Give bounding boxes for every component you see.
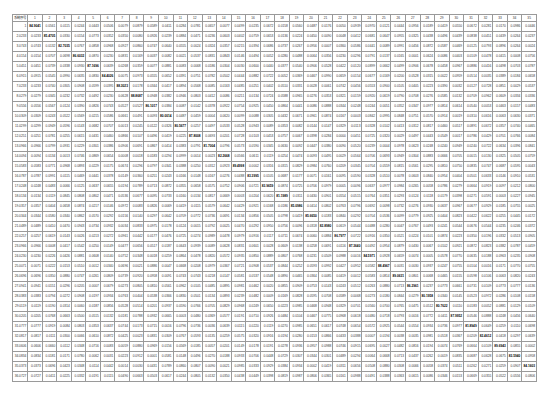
table-cell[interactable]: 0.0470 — [57, 222, 72, 232]
table-cell[interactable]: 0.0019 — [435, 352, 450, 362]
table-cell[interactable]: 0.0183 — [318, 212, 333, 222]
table-cell[interactable]: 0.0181 — [42, 352, 57, 362]
table-cell[interactable]: 0.0544 — [478, 222, 493, 232]
table-cell[interactable]: 0.0619 — [333, 222, 348, 232]
table-cell[interactable]: 0.0548 — [260, 272, 275, 282]
table-cell[interactable]: 0.0388 — [376, 372, 391, 382]
table-cell[interactable]: 0.0332 — [71, 372, 86, 382]
table-cell[interactable]: 0.0737 — [275, 42, 290, 52]
table-cell[interactable]: 0.0999 — [173, 152, 188, 162]
table-cell[interactable]: 0.0949 — [449, 142, 464, 152]
table-cell[interactable]: 0.0064 — [362, 352, 377, 362]
table-cell[interactable]: 0.0616 — [478, 112, 493, 122]
table-cell[interactable]: 0.0764 — [362, 192, 377, 202]
table-cell[interactable]: 0.0635 — [71, 72, 86, 82]
diagonal-cell[interactable]: 89.4998 — [231, 162, 246, 172]
table-cell[interactable]: 0.0119 — [260, 152, 275, 162]
table-cell[interactable]: 0.0398 — [260, 372, 275, 382]
table-cell[interactable]: 0.0077 — [217, 22, 232, 32]
table-cell[interactable]: 0.0305 — [57, 82, 72, 92]
table-cell[interactable]: 0.0446 — [522, 22, 537, 32]
table-cell[interactable]: 0.0377 — [275, 62, 290, 72]
table-cell[interactable]: 0.0555 — [144, 72, 159, 82]
table-cell[interactable]: 0.0305 — [260, 112, 275, 122]
table-cell[interactable]: 0.0630 — [507, 112, 522, 122]
table-cell[interactable]: 0.0346 — [435, 372, 450, 382]
table-cell[interactable]: 0.0345 — [42, 92, 57, 102]
table-cell[interactable]: 0.0183 — [464, 302, 479, 312]
table-cell[interactable]: 0.0382 — [493, 242, 508, 252]
table-cell[interactable]: 0.0870 — [86, 52, 101, 62]
table-cell[interactable]: 0.0920 — [129, 272, 144, 282]
table-cell[interactable]: 0.0662 — [376, 62, 391, 72]
table-cell[interactable]: 0.0257 — [188, 122, 203, 132]
table-cell[interactable]: 0.0561 — [406, 162, 421, 172]
table-cell[interactable]: 0.0071 — [28, 262, 43, 272]
table-cell[interactable]: 0.0237 — [522, 32, 537, 42]
table-cell[interactable]: 0.0482 — [391, 342, 406, 352]
table-cell[interactable]: 0.0212 — [507, 182, 522, 192]
table-cell[interactable]: 0.0090 — [333, 142, 348, 152]
table-cell[interactable]: 0.0954 — [376, 242, 391, 252]
table-cell[interactable]: 0.0682 — [86, 122, 101, 132]
table-cell[interactable]: 0.0262 — [464, 362, 479, 372]
table-cell[interactable]: 0.0419 — [333, 272, 348, 282]
table-cell[interactable]: 0.0978 — [391, 142, 406, 152]
table-cell[interactable]: 0.0816 — [406, 342, 421, 352]
table-cell[interactable]: 0.0915 — [347, 342, 362, 352]
table-cell[interactable]: 0.0000 — [333, 132, 348, 142]
table-cell[interactable]: 0.0727 — [28, 372, 43, 382]
table-cell[interactable]: 0.0154 — [71, 32, 86, 42]
table-cell[interactable]: 0.0194 — [420, 342, 435, 352]
table-cell[interactable]: 0.0573 — [231, 142, 246, 152]
table-cell[interactable]: 0.0135 — [202, 332, 217, 342]
table-cell[interactable]: 0.0114 — [86, 362, 101, 372]
table-cell[interactable]: 0.0493 — [420, 222, 435, 232]
table-cell[interactable]: 0.0820 — [507, 272, 522, 282]
table-cell[interactable]: 0.0977 — [376, 182, 391, 192]
table-cell[interactable]: 0.0888 — [318, 102, 333, 112]
table-cell[interactable]: 0.0835 — [464, 162, 479, 172]
table-cell[interactable]: 0.0386 — [100, 142, 115, 152]
table-cell[interactable]: 0.0237 — [420, 282, 435, 292]
table-cell[interactable]: 0.0082 — [158, 52, 173, 62]
table-cell[interactable]: 0.0030 — [406, 262, 421, 272]
table-cell[interactable]: 0.0080 — [129, 32, 144, 42]
table-cell[interactable]: 0.0725 — [362, 132, 377, 142]
table-cell[interactable]: 0.0930 — [71, 62, 86, 72]
table-cell[interactable]: 0.0801 — [406, 272, 421, 282]
diagonal-cell[interactable]: 87.3640 — [347, 242, 362, 252]
table-cell[interactable]: 0.0124 — [57, 102, 72, 112]
table-cell[interactable]: 0.0063 — [493, 112, 508, 122]
table-cell[interactable]: 0.0331 — [289, 82, 304, 92]
table-cell[interactable]: 0.0483 — [522, 102, 537, 112]
table-cell[interactable]: 0.0591 — [478, 192, 493, 202]
table-cell[interactable]: 0.0085 — [318, 272, 333, 282]
table-cell[interactable]: 0.0086 — [217, 92, 232, 102]
table-cell[interactable]: 0.0099 — [391, 212, 406, 222]
table-cell[interactable]: 0.0792 — [202, 222, 217, 232]
table-cell[interactable]: 0.0240 — [464, 142, 479, 152]
table-cell[interactable]: 0.0687 — [464, 352, 479, 362]
table-cell[interactable]: 0.0497 — [202, 122, 217, 132]
table-cell[interactable]: 0.0880 — [376, 362, 391, 372]
table-cell[interactable]: 0.0936 — [289, 342, 304, 352]
diagonal-cell[interactable]: 89.0631 — [391, 272, 406, 282]
table-cell[interactable]: 0.0810 — [144, 282, 159, 292]
table-cell[interactable]: 0.0907 — [507, 362, 522, 372]
table-cell[interactable]: 0.0879 — [391, 242, 406, 252]
table-cell[interactable]: 0.0862 — [71, 212, 86, 222]
table-cell[interactable]: 0.0624 — [420, 52, 435, 62]
table-cell[interactable]: 0.0908 — [246, 262, 261, 272]
table-cell[interactable]: 0.0132 — [100, 312, 115, 322]
table-cell[interactable]: 0.0259 — [158, 252, 173, 262]
diagonal-cell[interactable]: 82.7035 — [57, 42, 72, 52]
table-cell[interactable]: 0.0134 — [28, 192, 43, 202]
table-cell[interactable]: 0.0480 — [362, 312, 377, 322]
table-cell[interactable]: 0.0663 — [129, 372, 144, 382]
table-cell[interactable]: 0.0248 — [28, 182, 43, 192]
table-cell[interactable]: 0.0292 — [100, 212, 115, 222]
table-cell[interactable]: 0.0079 — [115, 22, 130, 32]
table-cell[interactable]: 0.0496 — [188, 352, 203, 362]
table-cell[interactable]: 0.0348 — [129, 252, 144, 262]
